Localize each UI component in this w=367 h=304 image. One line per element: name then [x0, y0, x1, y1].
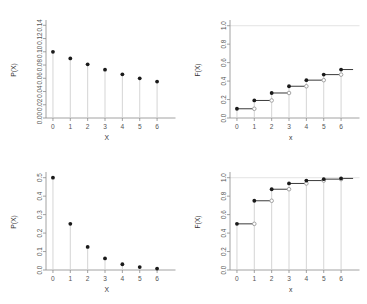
y-tick-label: 0.14 [36, 19, 43, 32]
step-open-marker [321, 78, 325, 82]
x-tick-label: 6 [339, 275, 343, 282]
x-tick-label: 3 [103, 275, 107, 282]
panel-top-right: 0.00.20.40.60.81.00123456xF(X) [184, 0, 367, 152]
x-tick-label: 3 [103, 123, 107, 130]
data-point [86, 62, 90, 66]
step-closed-marker [287, 182, 291, 186]
x-tick-label: 2 [86, 123, 90, 130]
x-axis-title: X [104, 134, 109, 141]
data-point [86, 245, 90, 249]
x-tick-label: 3 [287, 275, 291, 282]
y-tick-label: 1.0 [219, 21, 226, 30]
x-tick-label: 1 [252, 275, 256, 282]
panel-bottom-left: 0.00.10.20.30.40.50123456XP(X) [0, 152, 184, 304]
y-tick-label: 0.00 [36, 111, 43, 124]
y-tick-label: 0.4 [219, 76, 226, 85]
x-tick-label: 1 [252, 123, 256, 130]
step-closed-marker [321, 73, 325, 77]
figure-grid: 0.000.020.040.060.080.100.120.140123456X… [0, 0, 367, 304]
step-closed-marker [235, 222, 239, 226]
y-tick-label: 0.6 [219, 58, 226, 67]
x-tick-label: 0 [235, 275, 239, 282]
data-point [120, 262, 124, 266]
panel-bottom-right: 0.00.20.40.60.81.00123456xF(X) [184, 152, 367, 304]
panel-top-left: 0.000.020.040.060.080.100.120.140123456X… [0, 0, 184, 152]
step-open-marker [339, 73, 343, 77]
y-tick-label: 0.12 [36, 32, 43, 45]
y-tick-label: 0.3 [36, 210, 43, 219]
step-open-marker [287, 187, 291, 191]
y-tick-label: 0.0 [219, 113, 226, 122]
step-open-marker [269, 99, 273, 103]
y-tick-label: 0.02 [36, 98, 43, 111]
x-tick-label: 6 [155, 123, 159, 130]
y-tick-label: 0.04 [36, 85, 43, 98]
step-closed-marker [321, 177, 325, 181]
y-tick-label: 0.1 [36, 247, 43, 256]
data-point [155, 267, 159, 271]
data-point [51, 176, 55, 180]
x-tick-label: 0 [51, 123, 55, 130]
y-axis-title: F(X) [193, 215, 201, 228]
data-point [103, 257, 107, 261]
x-axis-title: x [289, 134, 293, 141]
step-open-marker [252, 107, 256, 111]
step-open-marker [252, 222, 256, 226]
x-tick-label: 2 [86, 275, 90, 282]
y-axis-title: P(X) [10, 63, 18, 77]
x-tick-label: 3 [287, 123, 291, 130]
y-tick-label: 0.2 [36, 228, 43, 237]
y-tick-label: 0.2 [219, 247, 226, 256]
y-tick-label: 0.08 [36, 58, 43, 71]
y-tick-label: 0.10 [36, 45, 43, 58]
x-tick-label: 5 [138, 275, 142, 282]
x-tick-label: 2 [269, 275, 273, 282]
x-tick-label: 0 [235, 123, 239, 130]
step-closed-marker [304, 78, 308, 82]
x-tick-label: 5 [138, 123, 142, 130]
x-tick-label: 4 [121, 275, 125, 282]
x-tick-label: 1 [68, 275, 72, 282]
y-tick-label: 0.0 [36, 265, 43, 274]
step-closed-marker [252, 199, 256, 203]
step-closed-marker [269, 187, 273, 191]
x-tick-label: 4 [304, 275, 308, 282]
y-tick-label: 0.8 [219, 39, 226, 48]
y-tick-label: 0.06 [36, 72, 43, 85]
step-closed-marker [252, 99, 256, 103]
y-tick-label: 0.2 [219, 95, 226, 104]
y-tick-label: 0.5 [36, 173, 43, 182]
step-closed-marker [287, 84, 291, 88]
data-point [120, 72, 124, 76]
x-tick-label: 0 [51, 275, 55, 282]
step-open-marker [269, 199, 273, 203]
y-tick-label: 0.8 [219, 191, 226, 200]
x-tick-label: 2 [269, 123, 273, 130]
x-tick-label: 6 [155, 275, 159, 282]
data-point [155, 80, 159, 84]
data-point [103, 68, 107, 72]
data-point [138, 265, 142, 269]
step-closed-marker [304, 179, 308, 183]
data-point [68, 57, 72, 61]
y-tick-label: 0.6 [219, 210, 226, 219]
data-point [68, 222, 72, 226]
y-axis-title: P(X) [10, 215, 18, 229]
x-axis-title: x [289, 286, 293, 293]
y-tick-label: 0.4 [36, 191, 43, 200]
x-tick-label: 4 [121, 123, 125, 130]
step-closed-marker [339, 68, 343, 72]
data-point [138, 76, 142, 80]
x-axis-title: X [104, 286, 109, 293]
data-point [51, 50, 55, 54]
step-open-marker [304, 84, 308, 88]
x-tick-label: 5 [321, 123, 325, 130]
y-axis-title: F(X) [193, 63, 201, 76]
y-tick-label: 0.4 [219, 228, 226, 237]
x-tick-label: 1 [68, 123, 72, 130]
x-tick-label: 6 [339, 123, 343, 130]
y-tick-label: 1.0 [219, 173, 226, 182]
x-tick-label: 5 [321, 275, 325, 282]
step-closed-marker [269, 91, 273, 95]
y-tick-label: 0.0 [219, 265, 226, 274]
